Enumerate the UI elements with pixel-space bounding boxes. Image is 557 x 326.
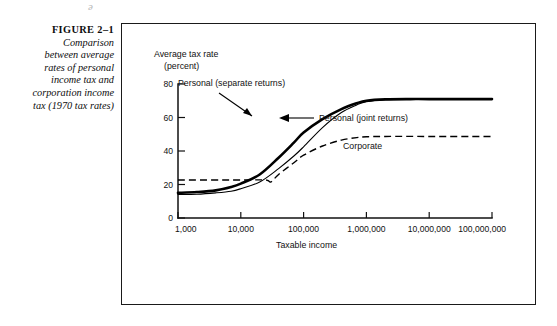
figure-caption: FIGURE 2–1 Comparison between average ra…: [4, 24, 114, 112]
x-axis-ticks: 1,00010,000100,0001,000,00010,000,000100…: [175, 212, 506, 234]
x-tick-label: 10,000: [228, 224, 255, 234]
x-tick-label: 100,000: [288, 224, 319, 234]
caption-line-1: Comparison: [4, 37, 114, 50]
caption-line-2: between average: [4, 49, 114, 62]
caption-line-5: corporation income: [4, 87, 114, 100]
scan-artifact-mark: ə: [86, 1, 95, 12]
caption-line-3: rates of personal: [4, 62, 114, 75]
y-tick-label: 80: [163, 79, 173, 89]
figure-number: FIGURE 2–1: [4, 24, 114, 37]
x-axis-title: Taxable income: [276, 240, 337, 250]
y-tick-label: 0: [168, 213, 173, 223]
caption-line-4: income tax and: [4, 74, 114, 87]
y-axis-unit: (percent): [164, 61, 199, 71]
y-tick-label: 60: [163, 113, 173, 123]
y-tick-label: 40: [163, 146, 173, 156]
y-axis-title: Average tax rate: [154, 49, 218, 59]
x-tick-label: 1,000,000: [347, 224, 385, 234]
x-tick-label: 100,000,000: [458, 224, 506, 234]
y-tick-label: 20: [163, 180, 173, 190]
annotation-personal-joint-arrowhead: [279, 114, 289, 122]
annotation-personal-joint-label: Personal (joint returns): [319, 113, 408, 123]
y-axis-ticks: 020406080: [163, 79, 185, 223]
annotation-corporate-label: Corporate: [343, 141, 382, 151]
series-corporate-line: [178, 136, 492, 182]
annotation-personal-separate-arrowhead: [243, 108, 252, 116]
caption-line-6: tax (1970 tax rates): [4, 100, 114, 113]
chart-plot: Average tax rate (percent) 020406080 1,0…: [121, 23, 536, 305]
annotation-personal-separate-label: Personal (separate returns): [178, 78, 285, 88]
x-tick-label: 10,000,000: [408, 224, 451, 234]
x-tick-label: 1,000: [175, 224, 197, 234]
